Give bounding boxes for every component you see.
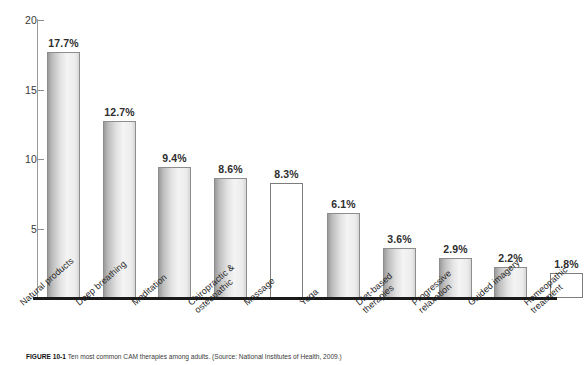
y-tick-label-5: 5 [11, 223, 37, 235]
bar-value-label-5: 8.3% [257, 168, 317, 180]
bar-value-label-6: 6.1% [314, 198, 374, 210]
y-tick-label-15: 15 [11, 84, 37, 96]
figure-caption-text: Ten most common CAM therapies among adul… [68, 353, 342, 360]
bar-3: 9.4% [158, 20, 191, 298]
bar-value-label-2: 12.7% [90, 106, 150, 118]
figure-caption: FIGURE 10-1 Ten most common CAM therapie… [26, 353, 561, 361]
bar-5: 8.3% [270, 20, 303, 298]
bar-4: 8.6% [214, 20, 247, 298]
bar-8: 2.9% [439, 20, 472, 298]
bar-value-label-7: 3.6% [370, 233, 430, 245]
bar-2: 12.7% [103, 20, 136, 298]
bar-value-label-4: 8.6% [201, 163, 261, 175]
figure-caption-label: FIGURE 10-1 [26, 353, 66, 360]
bar-10: 1.8% [550, 20, 583, 298]
x-axis-category-labels: Natural productsDeep breathingMeditation… [0, 300, 567, 350]
bar-value-label-3: 9.4% [145, 152, 205, 164]
y-tick-label-20: 20 [11, 14, 37, 26]
bar-rect-6 [327, 213, 360, 298]
bar-value-label-1: 17.7% [34, 37, 94, 49]
bar-1: 17.7% [47, 20, 80, 298]
bar-9: 2.2% [494, 20, 527, 298]
bar-6: 6.1% [327, 20, 360, 298]
bar-series: 17.7%12.7%9.4%8.6%8.3%6.1%3.6%2.9%2.2%1.… [37, 20, 555, 298]
y-tick-label-10: 10 [11, 153, 37, 165]
bar-value-label-8: 2.9% [426, 243, 486, 255]
bar-7: 3.6% [383, 20, 416, 298]
